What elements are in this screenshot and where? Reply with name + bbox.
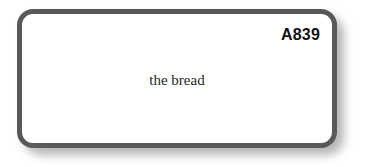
card-phrase-text: the bread bbox=[22, 73, 332, 88]
card-code-label: A839 bbox=[281, 27, 320, 43]
flashcard-canvas: A839 the bread bbox=[0, 0, 367, 167]
rounded-rectangle-card: A839 the bread bbox=[17, 9, 337, 148]
